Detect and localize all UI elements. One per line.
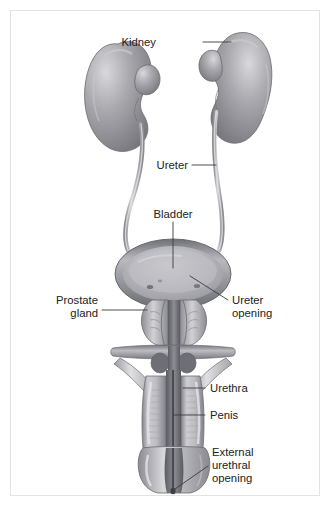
right-kidney xyxy=(199,33,272,144)
label-prostate-line1: Prostate xyxy=(56,294,98,306)
prostate-gland xyxy=(141,300,206,348)
label-ureter-opening-line1: Ureter xyxy=(232,294,264,306)
label-external-opening-line3: opening xyxy=(212,472,252,484)
anatomy-figure: Kidney Ureter Bladder Prostate gland Ure… xyxy=(0,0,330,506)
label-penis: Penis xyxy=(210,409,239,421)
left-kidney xyxy=(85,42,160,152)
anatomy-diagram: Kidney Ureter Bladder Prostate gland Ure… xyxy=(0,0,330,506)
label-kidney: Kidney xyxy=(121,36,156,48)
label-external-opening-line1: External xyxy=(212,446,253,458)
ureter-opening-right xyxy=(194,284,200,288)
label-prostate-line2: gland xyxy=(70,307,98,319)
label-urethra: Urethra xyxy=(210,382,248,394)
ureter-opening-left xyxy=(147,285,153,289)
label-ureter-opening-line2: opening xyxy=(232,307,272,319)
label-bladder: Bladder xyxy=(154,208,193,220)
glans-penis xyxy=(138,447,210,495)
label-ureter: Ureter xyxy=(157,159,189,171)
label-external-opening-line2: urethral xyxy=(212,459,250,471)
penis xyxy=(142,370,204,450)
